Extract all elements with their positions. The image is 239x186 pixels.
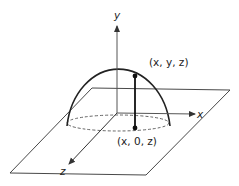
z-axis (69, 113, 117, 164)
hemisphere-base-ellipse (67, 115, 169, 131)
point-upper-dot (133, 74, 138, 79)
upper-point-label: (x, y, z) (149, 56, 188, 68)
y-axis-label: y (113, 9, 121, 21)
z-axis-label: z (59, 165, 66, 177)
hemisphere-diagram: y x z (x, y, z) (x, 0, z) (0, 0, 239, 186)
xz-plane (10, 88, 230, 175)
x-axis (117, 113, 195, 114)
lower-point-label: (x, 0, z) (117, 135, 157, 147)
x-axis-label: x (196, 108, 204, 120)
point-lower-dot (133, 126, 138, 131)
diagram-canvas: y x z (x, y, z) (x, 0, z) (0, 0, 239, 186)
